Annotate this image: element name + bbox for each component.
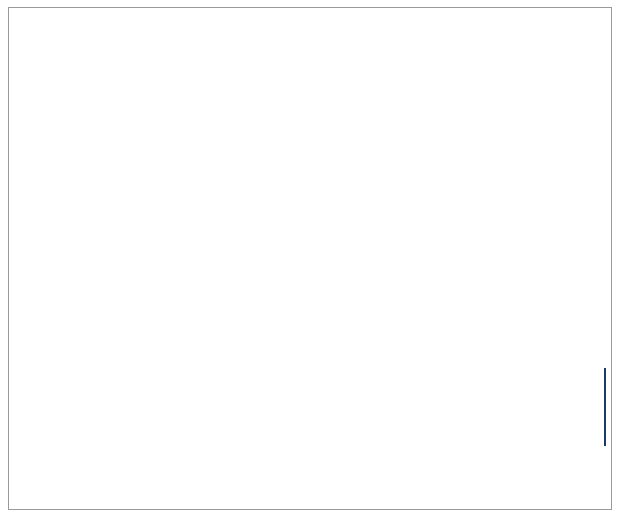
- nomogram-chart: [0, 0, 619, 518]
- page-edge-accent: [604, 368, 606, 446]
